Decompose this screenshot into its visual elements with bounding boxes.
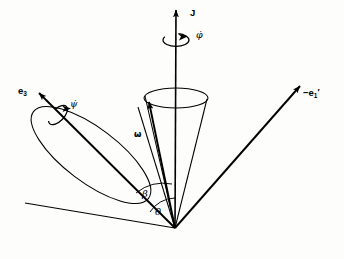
label-lab-axis-minus-e1-prime: −e1′ [303,88,320,99]
label-body-axis-e3-subscript: 3 [23,90,27,97]
diagram-canvas [0,0,344,259]
angular-velocity-omega-vector [149,102,175,228]
spin-rate-psi-dot-arrow [45,102,71,128]
angular-momentum-J-vector [175,10,176,228]
label-angle-beta: β [142,189,148,199]
label-lab-axis-base: −e [303,87,314,98]
label-angle-theta: θ [155,207,161,217]
space-cone-rim [17,90,165,220]
precession-figure: J e3 −e1′ ω β θ φ̇ ψ̇ [0,0,344,259]
label-angular-velocity-omega: ω [134,130,141,139]
label-lab-axis-prime: ′ [317,87,319,97]
label-precession-rate-phi-dot: φ̇ [196,30,203,40]
label-spin-rate-psi-dot: ψ̇ [70,99,77,109]
label-body-axis-e3: e3 [18,86,27,97]
label-angular-momentum-J: J [190,8,195,18]
lab-axis-minus-e1-prime-vector [175,86,300,228]
